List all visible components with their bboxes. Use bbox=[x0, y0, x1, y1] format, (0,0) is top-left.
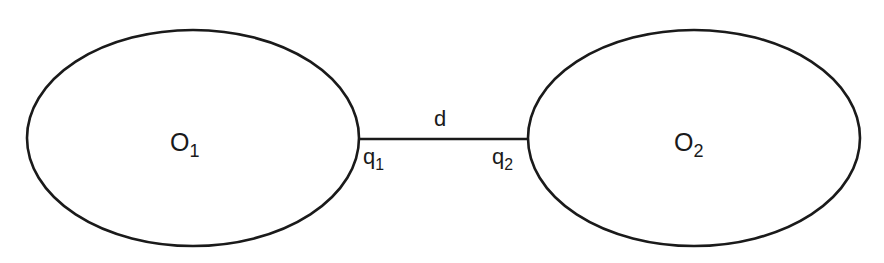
object-o2-label-base: O bbox=[674, 128, 693, 156]
point-q1-label-base: q bbox=[363, 144, 375, 169]
object-o1-label-sub: 1 bbox=[189, 141, 199, 161]
object-o1-label-base: O bbox=[170, 128, 189, 156]
point-q1-label-sub: 1 bbox=[375, 156, 384, 173]
distance-label: d bbox=[434, 108, 446, 130]
diagram-canvas: O1 O2 d q1 q2 bbox=[0, 0, 884, 263]
point-q2-label: q2 bbox=[492, 146, 513, 168]
point-q1-label: q1 bbox=[363, 146, 384, 168]
diagram-graphics bbox=[0, 0, 884, 263]
point-q2-label-base: q bbox=[492, 144, 504, 169]
object-o1-label: O1 bbox=[170, 130, 199, 155]
point-q2-label-sub: 2 bbox=[504, 156, 513, 173]
object-o2-label: O2 bbox=[674, 130, 703, 155]
object-o2-label-sub: 2 bbox=[693, 141, 703, 161]
